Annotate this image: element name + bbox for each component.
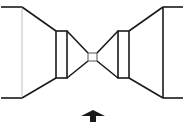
right-taper-bottom-line xyxy=(97,61,118,78)
optical-diagram xyxy=(0,0,193,131)
left-taper-top-line xyxy=(67,31,88,53)
right-taper-top-line xyxy=(97,31,118,53)
left-cone-bottom-line xyxy=(22,78,56,98)
left-lens-box xyxy=(56,31,67,78)
right-lens-box xyxy=(118,31,129,78)
right-cone-bottom-line xyxy=(129,78,163,98)
right-assembly xyxy=(97,7,183,98)
right-cone-top-line xyxy=(129,7,163,31)
left-taper-bottom-line xyxy=(67,61,88,78)
focal-square xyxy=(88,53,97,61)
arrow-up-icon xyxy=(81,110,105,122)
left-assembly xyxy=(1,7,88,98)
left-cone-top-line xyxy=(22,7,56,31)
